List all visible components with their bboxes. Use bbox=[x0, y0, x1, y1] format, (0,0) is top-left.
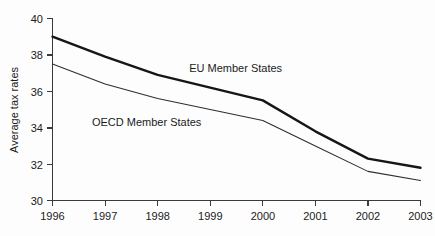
y-axis-title: Average tax rates bbox=[8, 66, 20, 153]
y-tick-label-30: 30 bbox=[31, 195, 43, 207]
x-tick-label-1998: 1998 bbox=[145, 210, 169, 222]
line-chart: Average tax rates 40 38 36 34 32 30 1996… bbox=[0, 0, 435, 236]
series-label-eu-member-states: EU Member States bbox=[189, 62, 282, 74]
chart-container: Average tax rates 40 38 36 34 32 30 1996… bbox=[0, 0, 435, 236]
series-label-oecd-member-states: OECD Member States bbox=[92, 116, 202, 128]
x-tick-label-2003: 2003 bbox=[408, 210, 432, 222]
y-tick-label-36: 36 bbox=[31, 86, 43, 98]
x-axis-ticks: 1996 1997 1998 1999 2000 2001 2002 2003 bbox=[40, 201, 432, 223]
series-line-eu-member-states bbox=[53, 37, 421, 168]
x-tick-label-1997: 1997 bbox=[93, 210, 117, 222]
y-tick-label-40: 40 bbox=[31, 13, 43, 25]
x-tick-label-2002: 2002 bbox=[356, 210, 380, 222]
y-axis-ticks: 40 38 36 34 32 30 bbox=[31, 13, 53, 207]
y-tick-label-34: 34 bbox=[31, 122, 43, 134]
y-tick-label-38: 38 bbox=[31, 49, 43, 61]
x-tick-label-1996: 1996 bbox=[40, 210, 64, 222]
x-tick-label-1999: 1999 bbox=[198, 210, 222, 222]
x-tick-label-2001: 2001 bbox=[303, 210, 327, 222]
y-tick-label-32: 32 bbox=[31, 159, 43, 171]
x-tick-label-2000: 2000 bbox=[251, 210, 275, 222]
